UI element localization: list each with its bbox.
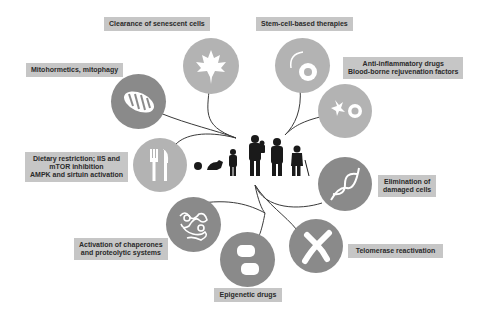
circle-stem-cell [275,38,330,93]
life-course-silhouettes [193,126,313,178]
mitochondrion-icon [119,88,159,116]
cell-signaling-icon [325,94,365,128]
circle-senescent [183,38,239,94]
maple-leaf-icon [191,46,231,86]
circle-mito [111,74,166,129]
adult-with-child-icon [249,135,265,176]
protein-structure-icon [175,206,213,244]
chromosome-icon [297,227,335,265]
label-mitohormetics: Mitohormetics, mitophagy [26,63,123,77]
label-dietary-restriction: Dietary restriction; IIS and mTOR inhibi… [25,152,128,182]
label-line: damaged cells [383,186,431,194]
circle-dietary [133,138,187,192]
stem-cell-icon [283,46,323,86]
label-line: Blood-borne rejuvenation factors [348,68,458,76]
label-elimination-damaged-cells: Elimination of damaged cells [378,175,436,197]
label-line: mTOR inhibition [30,163,123,171]
dna-helix-icon [325,164,365,204]
label-line: Activation of chaperones [79,241,163,249]
circle-elimination [318,157,372,211]
circle-epigenetic [220,232,275,287]
circle-telomerase [289,219,343,273]
label-epigenetic-drugs: Epigenetic drugs [214,288,282,302]
circle-anti-inflammatory [318,84,372,138]
child-icon [229,149,237,176]
label-anti-inflammatory: Anti-inflammatory drugs Blood-borne reju… [343,57,463,79]
fork-knife-icon [145,147,175,183]
label-line: Dietary restriction; IIS and [30,155,123,163]
pills-icon [231,241,265,279]
label-line: and proteolytic systems [79,249,163,257]
label-telomerase-reactivation: Telomerase reactivation [348,244,443,258]
label-line: AMPK and sirtuin activation [30,171,123,179]
crawling-baby-icon [207,160,223,170]
label-stem-cell-therapies: Stem-cell-based therapies [256,17,353,31]
label-line: Elimination of [383,178,431,186]
label-chaperones: Activation of chaperones and proteolytic… [74,238,168,260]
label-line: Anti-inflammatory drugs [348,60,458,68]
circle-chaperones [166,197,221,252]
label-clearance-senescent-cells: Clearance of senescent cells [104,17,210,31]
elderly-with-cane-icon [291,146,309,177]
embryo-icon [194,162,202,170]
adult-icon [271,138,283,176]
